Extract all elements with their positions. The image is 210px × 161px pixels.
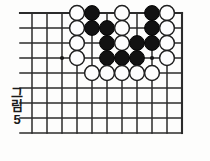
white-stone: [85, 66, 100, 81]
white-stone: [70, 51, 85, 66]
black-stone: [145, 21, 160, 36]
black-stone: [115, 51, 130, 66]
white-stone: [160, 6, 175, 21]
white-stone: [160, 21, 175, 36]
white-stone: [115, 21, 130, 36]
white-stone: [115, 66, 130, 81]
white-stone: [70, 6, 85, 21]
black-stone: [85, 6, 100, 21]
star-point: [60, 56, 64, 60]
black-stone: [100, 36, 115, 51]
black-stone: [130, 36, 145, 51]
black-stone: [145, 36, 160, 51]
white-stone: [160, 36, 175, 51]
go-diagram-screenshot: 그 림 5: [0, 0, 210, 161]
white-stone: [160, 51, 175, 66]
white-stone: [70, 36, 85, 51]
black-stone: [130, 51, 145, 66]
star-point: [150, 56, 154, 60]
white-stone: [70, 21, 85, 36]
go-board-svg: [0, 0, 210, 161]
black-stone: [85, 21, 100, 36]
white-stone: [115, 36, 130, 51]
white-stone: [115, 6, 130, 21]
white-stone: [130, 66, 145, 81]
caption-char-2: 림: [6, 99, 28, 112]
white-stone: [100, 66, 115, 81]
caption-number: 5: [6, 113, 28, 126]
black-stone: [100, 51, 115, 66]
figure-caption: 그 림 5: [6, 86, 28, 126]
black-stone: [145, 6, 160, 21]
black-stone: [100, 21, 115, 36]
go-board: [0, 0, 210, 161]
white-stone: [145, 66, 160, 81]
